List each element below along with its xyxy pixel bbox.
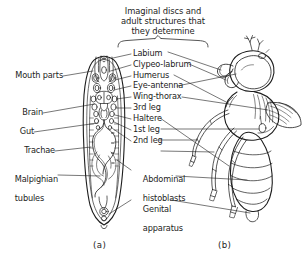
label-genital-line1: Genital	[143, 204, 171, 214]
label-genital-line2: apparatus	[143, 223, 183, 233]
title-brace	[118, 36, 208, 48]
figure-imaginal-discs: Imaginal discs and adult structures that…	[0, 0, 304, 269]
caption-panel-b: (b)	[218, 240, 231, 250]
label-eye-antenna: Eye-antenna	[133, 81, 183, 91]
label-haltere: Haltere	[133, 114, 162, 124]
label-mouth-parts: Mouth parts	[0, 71, 63, 81]
label-malpighian-tubules: Malpighian tubules	[5, 165, 67, 213]
label-malpighian-line2: tubules	[15, 193, 44, 203]
label-labium: Labium	[133, 49, 162, 59]
figure-title: Imaginal discs and adult structures that…	[113, 6, 213, 37]
label-abdominal-line1: Abdominal	[143, 174, 185, 184]
label-genital-apparatus: Genital apparatus	[133, 195, 183, 243]
label-brain: Brain	[0, 108, 43, 118]
caption-panel-a: (a)	[93, 240, 106, 250]
label-trachae: Trachae	[0, 146, 55, 156]
label-malpighian-line1: Malpighian	[15, 174, 58, 184]
label-3rd-leg: 3rd leg	[133, 103, 161, 113]
label-2nd-leg: 2nd leg	[133, 136, 163, 146]
label-wing-thorax: Wing-thorax	[133, 92, 182, 102]
larva-drawing	[83, 56, 125, 229]
label-1st-leg: 1st leg	[133, 125, 160, 135]
label-gut: Gut	[0, 127, 34, 137]
adult-fly-drawing	[189, 36, 301, 222]
label-clypeo-labrum: Clypeo-labrum	[133, 60, 191, 70]
